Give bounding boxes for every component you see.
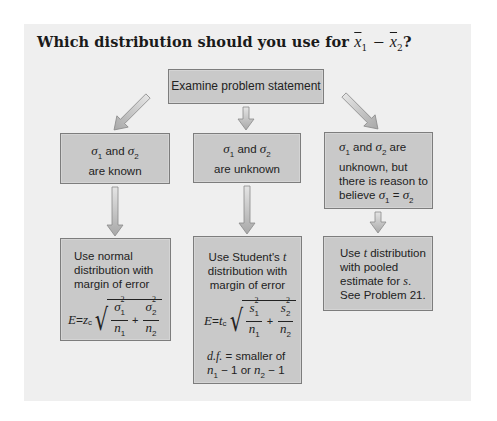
condition-line2: unknown, but (339, 160, 432, 174)
result-line: distribution with (194, 264, 301, 278)
result-line: distribution with (74, 263, 170, 277)
condition-line2: are unknown (194, 162, 300, 176)
result-line: margin of error (74, 277, 170, 291)
condition-line1: σ1 and σ2 are (339, 140, 432, 160)
condition-line3: there is reason to (339, 174, 432, 188)
result-student-t-box: Use Student's t distribution with margin… (193, 236, 302, 384)
result-line: See Problem 21. (340, 288, 432, 302)
condition-line2: are known (61, 164, 169, 178)
condition-unknown-box: σ1 and σ2 are unknown (193, 133, 301, 183)
condition-line1: σ1 and σ2 (194, 142, 300, 162)
condition-line4: believe σ1 = σ2 (339, 188, 432, 208)
margin-of-error-formula-t: E = tc √ s21n1 + s22n2 (204, 300, 301, 341)
result-line: estimate for s. (340, 274, 432, 288)
arrow-down-right-icon (338, 89, 383, 134)
result-line: Use Student's t (194, 250, 301, 264)
arrow-down-icon (239, 186, 255, 234)
margin-of-error-formula-z: E = zc √ σ21n1 + σ22n2 (68, 299, 170, 340)
examine-problem-label: Examine problem statement (171, 79, 320, 93)
result-pooled-t-box: Use t distribution with pooled estimate … (323, 236, 433, 311)
result-line: margin of error (194, 278, 301, 292)
condition-line1: σ1 and σ2 (61, 144, 169, 164)
condition-equal-variance-box: σ1 and σ2 are unknown, but there is reas… (324, 132, 433, 209)
result-line: with pooled (340, 260, 432, 274)
arrow-down-icon (107, 187, 123, 236)
arrow-down-icon (370, 212, 386, 233)
degrees-of-freedom: d.f. = smaller of n1 − 1 or n2 − 1 (194, 349, 301, 383)
result-normal-box: Use normal distribution with margin of e… (60, 238, 171, 341)
result-line: Use normal (74, 249, 170, 263)
result-line: Use t distribution (340, 246, 432, 260)
condition-known-box: σ1 and σ2 are known (60, 133, 170, 184)
arrow-down-icon (238, 107, 254, 130)
arrow-down-left-icon (108, 90, 153, 135)
examine-problem-box: Examine problem statement (168, 69, 324, 104)
